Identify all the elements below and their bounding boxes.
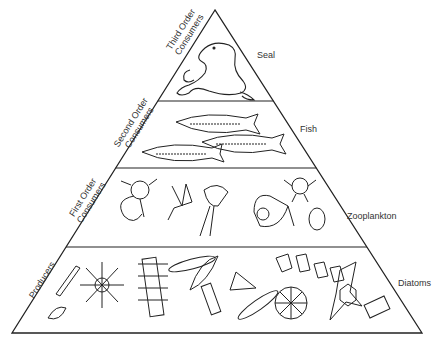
organism-label-fish: Fish (300, 124, 317, 134)
organism-label-seal: Seal (257, 50, 275, 60)
fish-illustration (142, 114, 286, 162)
pyramid-diagram (0, 0, 446, 343)
pyramid-outline (12, 10, 422, 333)
diatoms-illustration (48, 253, 390, 323)
organism-label-zooplankton: Zooplankton (347, 211, 397, 221)
zooplankton-illustration (121, 178, 325, 236)
organism-label-diatoms: Diatoms (398, 278, 431, 288)
